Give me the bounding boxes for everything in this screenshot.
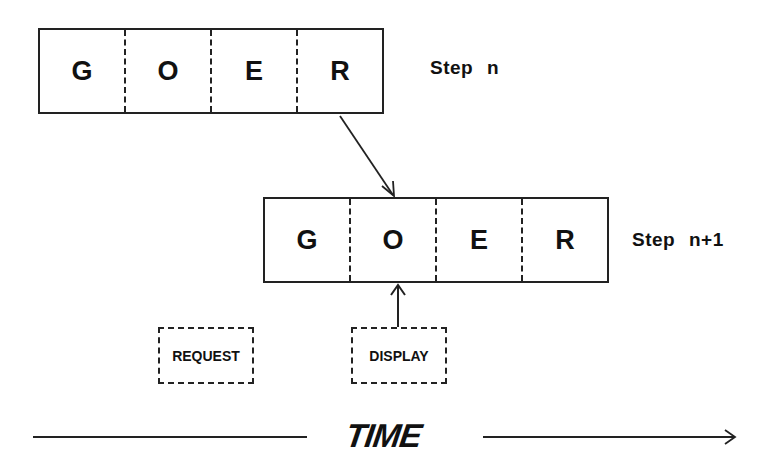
step-n1-cell: R — [521, 199, 607, 281]
step-n-buffer: G O E R — [38, 28, 384, 114]
step-n-cell: O — [124, 30, 210, 112]
step-n-label: Step n — [430, 57, 499, 79]
request-pointer-box: REQUEST — [158, 327, 254, 384]
display-pointer-box: DISPLAY — [351, 327, 447, 384]
step-n1-cell: G — [265, 199, 349, 281]
step-n-cell: R — [296, 30, 382, 112]
step-n1-cell: E — [435, 199, 521, 281]
step-n1-cell: O — [349, 199, 435, 281]
display-arrow — [391, 285, 405, 328]
step-n-cell: G — [40, 30, 124, 112]
step-n-cell: E — [210, 30, 296, 112]
step-n1-label: Step n+1 — [632, 229, 724, 251]
shift-arrow — [340, 116, 394, 196]
time-axis-label: TIME — [343, 417, 423, 455]
step-n1-buffer: G O E R — [263, 197, 609, 283]
